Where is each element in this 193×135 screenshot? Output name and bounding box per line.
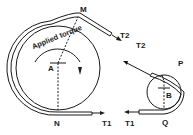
label-T2-left: T2 (120, 31, 130, 40)
label-B: B (166, 91, 172, 100)
label-N: N (54, 119, 60, 128)
belt-small-inner (139, 76, 181, 110)
label-M: M (80, 5, 87, 14)
belt-pulley-diagram: M A N P B Q T2 T1 T2 T1 Applied torque (0, 0, 193, 135)
label-T1-right: T1 (125, 119, 135, 128)
belt-large-outer (7, 13, 112, 115)
torque-arc (35, 49, 80, 62)
label-P: P (178, 59, 184, 68)
label-T2-right: T2 (136, 41, 146, 50)
label-Q: Q (162, 118, 168, 127)
label-A: A (48, 64, 54, 73)
belt-small-outer (139, 73, 184, 114)
label-T1-left: T1 (102, 119, 112, 128)
